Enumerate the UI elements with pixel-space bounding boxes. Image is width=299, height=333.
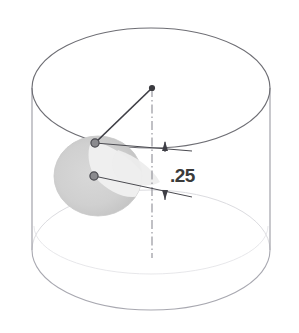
drawing-canvas: .25 [0, 0, 299, 333]
axis-top-point [149, 85, 155, 91]
lower-edge-node [90, 172, 98, 180]
dimension-value-label: .25 [170, 165, 196, 186]
cylinder-technical-drawing: .25 [0, 0, 299, 333]
lower-dim-arrowhead [162, 190, 168, 200]
bottom-ellipse-front-arc [32, 250, 270, 310]
upper-edge-node [91, 139, 99, 147]
inner-back-wall-arc [34, 226, 268, 274]
